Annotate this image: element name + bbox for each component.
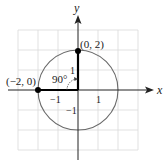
point-label-0-2: (0, 2)	[80, 38, 104, 51]
tick-label-x-pos1: 1	[96, 94, 101, 105]
coordinate-plane-diagram: y x (0, 2) (−2, 0) 90° −1 1 1 −1	[0, 0, 167, 163]
x-axis-label: x	[156, 83, 163, 97]
tick-label-x-neg1: −1	[50, 94, 61, 105]
tick-label-y-pos1: 1	[70, 65, 75, 76]
point-label-neg2-0: (−2, 0)	[6, 75, 36, 88]
angle-label: 90°	[52, 73, 67, 85]
point-neg2-0	[35, 87, 41, 93]
x-axis	[8, 87, 154, 94]
tick-label-y-neg1: −1	[66, 105, 77, 116]
y-axis-label: y	[73, 1, 80, 15]
